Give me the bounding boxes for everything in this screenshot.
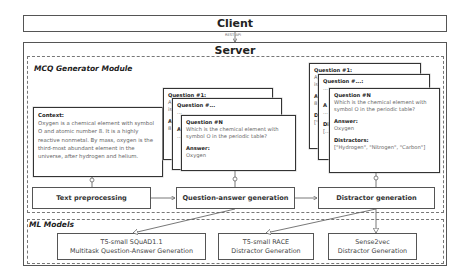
dist-card-2-heading: Question #...: (323, 78, 425, 85)
context-text: Oxygen is a chemical element with symbol… (38, 120, 154, 159)
qa-card-n-answer-label: Answer: (186, 145, 291, 152)
dist-card-1-heading: Question #1: (314, 67, 416, 74)
dist-card-n-question: Which is the chemical element with symbo… (334, 99, 435, 113)
mcq-module-label: MCQ Generator Module (34, 64, 132, 73)
step-question-answer-generation: Question-answer generation (176, 187, 295, 209)
step-label: Distractor generation (336, 194, 416, 202)
ml-model-sense2vec: Sense2vec Distractor Generation (328, 233, 417, 260)
step-text-preprocessing: Text preprocessing (32, 187, 151, 209)
distractor-card-n: Question #N Which is the chemical elemen… (329, 88, 440, 173)
step-label: Text preprocessing (56, 194, 127, 202)
model-name: T5-small SQuAD1.1 (101, 238, 163, 247)
dist-card-n-dist: ["Hydrogen", "Nitrogen", "Carbon"] (334, 144, 435, 151)
model-task: Distractor Generation (338, 247, 407, 256)
qa-card-n-question: Which is the chemical element with symbo… (186, 126, 291, 140)
context-heading: Context: (38, 111, 158, 119)
model-name: Sense2vec (355, 238, 390, 247)
ml-models-label: ML Models (29, 220, 74, 229)
model-task: Distractor Generation (231, 247, 300, 256)
model-task: Multitask Question-Answer Generation (70, 247, 193, 256)
qa-card-n-answer: Oxygen (186, 152, 291, 159)
dist-card-n-answer-label: Answer: (334, 118, 435, 125)
client-box: Client (23, 15, 447, 32)
model-name: T5-small RACE (243, 238, 289, 247)
dist-card-n-dist-label: Distractors: (334, 137, 435, 144)
dist-card-n-answer: Oxygen (334, 125, 435, 132)
step-label: Question-answer generation (183, 194, 289, 202)
dist-card-n-heading: Question #N (334, 92, 435, 99)
ml-model-t5-squad: T5-small SQuAD1.1 Multitask Question-Ans… (57, 233, 206, 260)
qa-card-n: Question #N Which is the chemical elemen… (181, 115, 296, 171)
qa-card-2-heading: Question #... (177, 102, 277, 109)
ml-model-t5-race: T5-small RACE Distractor Generation (218, 233, 314, 260)
qa-card-n-heading: Question #N (186, 119, 291, 126)
client-label: Client (217, 17, 253, 30)
context-card: Context: Oxygen is a chemical element wi… (33, 107, 163, 177)
rest-api-label: REST API (225, 33, 241, 37)
step-distractor-generation: Distractor generation (318, 187, 435, 209)
